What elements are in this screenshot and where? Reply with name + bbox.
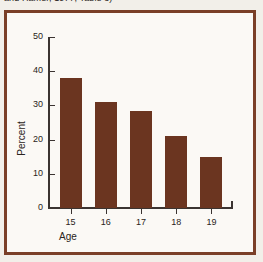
x-tick-label-19: 19 xyxy=(201,217,221,227)
figure-caption-text: and Hamer, 1977, Table 3) xyxy=(4,0,112,3)
x-tick-19 xyxy=(211,209,212,214)
y-tick-label-0: 0 xyxy=(21,202,43,212)
figure-frame: 01020304050 1516171819 Percent Age xyxy=(4,10,256,255)
y-tick-40 xyxy=(50,71,55,72)
bar-chart-plot-area: 01020304050 1516171819 Percent Age xyxy=(7,13,253,252)
y-axis-title: Percent xyxy=(16,109,27,169)
bar-19 xyxy=(200,157,222,208)
x-axis-title: Age xyxy=(59,231,77,242)
figure-caption-strip: and Hamer, 1977, Table 3) xyxy=(0,0,263,9)
y-tick-0 xyxy=(50,208,55,209)
bar-17 xyxy=(130,111,152,208)
x-tick-label-17: 17 xyxy=(131,217,151,227)
bar-15 xyxy=(60,78,82,208)
y-tick-label-50: 50 xyxy=(21,31,43,41)
y-tick-10 xyxy=(50,174,55,175)
x-tick-18 xyxy=(176,209,177,214)
y-tick-label-10: 10 xyxy=(21,168,43,178)
x-tick-label-15: 15 xyxy=(61,217,81,227)
x-tick-label-18: 18 xyxy=(166,217,186,227)
x-tick-17 xyxy=(141,209,142,214)
x-axis-endcap xyxy=(231,201,233,209)
y-tick-30 xyxy=(50,105,55,106)
y-tick-20 xyxy=(50,140,55,141)
x-tick-label-16: 16 xyxy=(96,217,116,227)
y-axis-line xyxy=(48,37,50,209)
bar-18 xyxy=(165,136,187,208)
x-tick-15 xyxy=(71,209,72,214)
x-tick-16 xyxy=(106,209,107,214)
y-tick-50 xyxy=(50,37,55,38)
y-tick-label-40: 40 xyxy=(21,65,43,75)
bar-16 xyxy=(95,102,117,208)
